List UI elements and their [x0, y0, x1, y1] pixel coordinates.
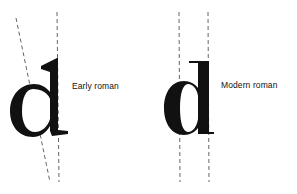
- typography-diagram: Early roman Modern roman: [0, 0, 297, 194]
- early-roman-label: Early roman: [72, 81, 119, 91]
- early-roman-letter-d: [10, 58, 68, 137]
- modern-roman-figure: [164, 12, 214, 182]
- modern-roman-letter-d: [164, 61, 214, 135]
- modern-roman-label: Modern roman: [221, 80, 277, 90]
- diagram-artwork: [0, 0, 297, 194]
- early-roman-figure: [10, 12, 68, 182]
